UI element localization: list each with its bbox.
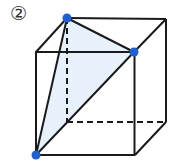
edge-top-right — [134, 19, 166, 52]
vertex-dot-bottom-left — [32, 151, 41, 160]
cube-cross-section-diagram — [0, 0, 174, 168]
vertex-dot-top — [63, 14, 72, 23]
vertex-dot-right — [130, 48, 139, 57]
edge-bottom-right — [135, 122, 166, 155]
edge-top-back — [67, 18, 166, 19]
